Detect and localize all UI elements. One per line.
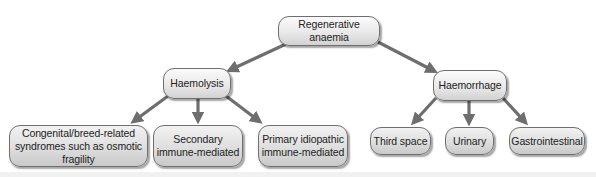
arrow-haemolysis-to-primary [226,96,259,121]
node-haemorrhage: Haemorrhage [433,70,507,101]
diagram-canvas: Regenerative anaemia Haemolysis Haemorrh… [0,0,596,177]
node-urinary: Urinary [445,127,494,155]
bottom-band [0,172,596,177]
node-secondary-immune-mediated: Secondary immune-mediated [153,125,243,167]
node-third-space: Third space [370,127,431,155]
node-gastrointestinal: Gastrointestinal [509,127,585,155]
node-regenerative-anaemia: Regenerative anaemia [278,16,380,46]
arrow-root-to-haemolysis [230,44,286,70]
arrow-root-to-haemorrhage [378,42,434,71]
node-primary-idiopathic-immune-mediated: Primary idiopathic immune-mediated [258,125,348,167]
node-haemolysis: Haemolysis [163,68,231,99]
node-congenital-breed-related: Congenital/breed-related syndromes such … [9,125,148,167]
arrow-haemolysis-to-congenital [134,96,168,121]
arrow-haemorrhage-to-third-space [414,98,436,122]
arrow-haemorrhage-to-gastrointestinal [503,98,525,122]
